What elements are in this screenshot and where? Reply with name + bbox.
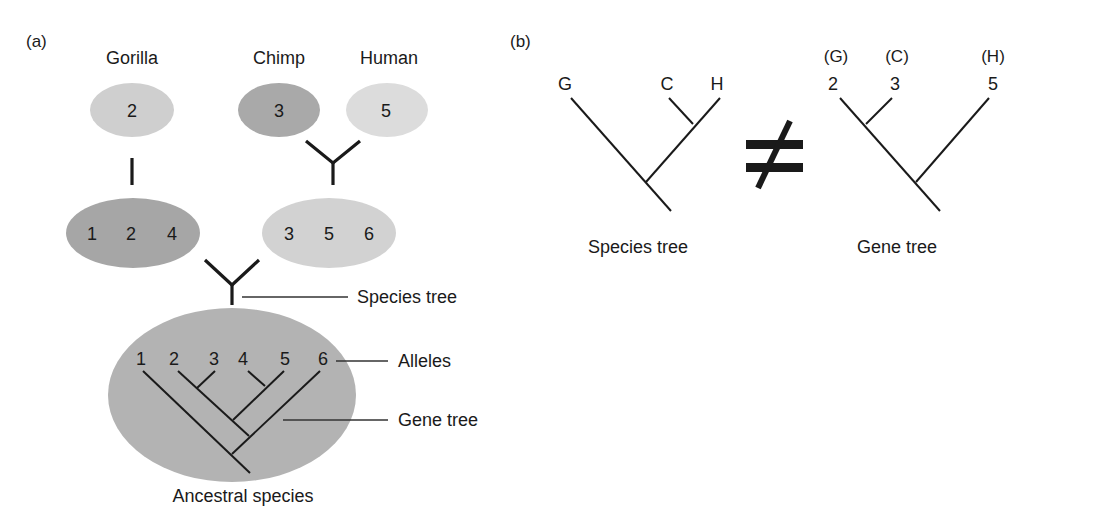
pool-allele: 5: [324, 224, 334, 244]
ancestral-allele: 5: [280, 349, 290, 369]
gene-tree-annotation: Gene tree: [398, 410, 478, 430]
species-name-chimp: Chimp: [253, 48, 305, 68]
panel-a: (a) Gorilla Chimp Human 2 3 5 1 2 4 3 5 …: [26, 32, 478, 506]
chimp-allele: 3: [274, 101, 284, 121]
species-tree-tip-g: G: [558, 74, 572, 94]
gene-tree-tip-5: 5: [988, 74, 998, 94]
pool-allele: 3: [284, 224, 294, 244]
pool-allele: 2: [126, 224, 136, 244]
panel-b-label: (b): [510, 32, 531, 51]
pool-allele: 4: [167, 224, 177, 244]
panel-a-label: (a): [26, 32, 47, 51]
species-tree-branches: [571, 98, 720, 211]
species-tree-tip-h: H: [711, 74, 724, 94]
alleles-annotation: Alleles: [398, 351, 451, 371]
species-tree-tip-c: C: [661, 74, 674, 94]
ancestral-allele: 6: [318, 349, 328, 369]
species-tree-caption: Species tree: [588, 237, 688, 257]
gene-tree-caption: Gene tree: [857, 237, 937, 257]
gorilla-allele: 2: [127, 101, 137, 121]
ancestral-allele: 4: [238, 349, 248, 369]
gene-tree-branches-b: [840, 98, 989, 211]
figure-canvas: (a) Gorilla Chimp Human 2 3 5 1 2 4 3 5 …: [0, 0, 1117, 516]
species-tree-annotation: Species tree: [357, 287, 457, 307]
gene-tree-tip-species-g: (G): [824, 47, 849, 66]
ancestral-allele: 2: [169, 349, 179, 369]
human-allele: 5: [381, 101, 391, 121]
panel-b: (b) G C H Species tree (G) (C) (H) 2 3 5…: [510, 32, 1005, 257]
gene-tree-tip-2: 2: [828, 74, 838, 94]
ancestral-species-label: Ancestral species: [172, 486, 313, 506]
not-equal-icon: [746, 121, 803, 188]
pool-allele: 6: [364, 224, 374, 244]
ancestral-allele: 3: [209, 349, 219, 369]
ancestral-allele: 1: [136, 349, 146, 369]
gene-tree-tip-3: 3: [890, 74, 900, 94]
gene-tree-tip-species-h: (H): [981, 47, 1005, 66]
gene-tree-tip-species-c: (C): [885, 47, 909, 66]
species-name-gorilla: Gorilla: [106, 48, 159, 68]
chimp-human-split-arms: [306, 141, 360, 163]
species-name-human: Human: [360, 48, 418, 68]
species-tree-split-arms: [205, 260, 259, 285]
pool-allele: 1: [87, 224, 97, 244]
